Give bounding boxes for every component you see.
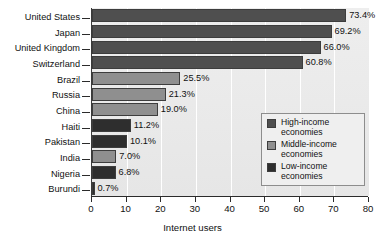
bar-row: 66.0% bbox=[92, 41, 369, 54]
category-label: Nigeria bbox=[0, 169, 80, 179]
category-tick bbox=[82, 18, 90, 19]
category-tick bbox=[82, 112, 90, 113]
bar-low bbox=[92, 119, 131, 132]
bar-high bbox=[92, 25, 332, 38]
legend-swatch-icon bbox=[267, 163, 276, 172]
category-label: Haiti bbox=[0, 122, 80, 132]
bar-middle bbox=[92, 103, 158, 116]
bar-value-label: 69.2% bbox=[335, 26, 361, 37]
value-axis: 01020304050607080 bbox=[91, 196, 368, 197]
category-label: India bbox=[0, 153, 80, 163]
x-tick bbox=[264, 197, 265, 202]
bar-row: 21.3% bbox=[92, 88, 369, 101]
x-tick-label: 40 bbox=[215, 203, 245, 214]
x-tick bbox=[195, 197, 196, 202]
bar-row: 73.4% bbox=[92, 9, 369, 22]
bar-row: 60.8% bbox=[92, 56, 369, 69]
x-tick bbox=[299, 197, 300, 202]
bar-low bbox=[92, 135, 127, 148]
x-tick bbox=[160, 197, 161, 202]
bar-high bbox=[92, 56, 303, 69]
legend-label: Low-income economies bbox=[281, 162, 359, 181]
category-label: Brazil bbox=[0, 75, 80, 85]
category-tick bbox=[82, 143, 90, 144]
legend-swatch-icon bbox=[267, 119, 276, 128]
bar-value-label: 66.0% bbox=[324, 42, 350, 53]
category-label: United Kingdom bbox=[0, 43, 80, 53]
x-tick bbox=[91, 197, 92, 202]
x-tick-label: 20 bbox=[145, 203, 175, 214]
bar-middle bbox=[92, 150, 116, 163]
bar-value-label: 6.8% bbox=[119, 167, 140, 178]
category-tick bbox=[82, 175, 90, 176]
legend-item-high: High-income economies bbox=[267, 118, 359, 137]
x-tick bbox=[230, 197, 231, 202]
category-tick bbox=[82, 190, 90, 191]
bar-low bbox=[92, 166, 116, 179]
bar-value-label: 60.8% bbox=[306, 57, 332, 68]
x-tick bbox=[333, 197, 334, 202]
category-tick bbox=[82, 49, 90, 50]
legend-swatch-icon bbox=[267, 141, 276, 150]
category-label: China bbox=[0, 106, 80, 116]
x-tick-label: 30 bbox=[180, 203, 210, 214]
bar-high bbox=[92, 41, 321, 54]
category-label: Switzerland bbox=[0, 59, 80, 69]
gridline bbox=[369, 8, 370, 196]
category-label: Pakistan bbox=[0, 137, 80, 147]
category-tick bbox=[82, 81, 90, 82]
legend-item-low: Low-income economies bbox=[267, 162, 359, 181]
category-label: United States bbox=[0, 12, 80, 22]
bar-row: 69.2% bbox=[92, 25, 369, 38]
category-tick bbox=[82, 34, 90, 35]
category-axis-labels: United StatesJapanUnited KingdomSwitzerl… bbox=[0, 10, 80, 196]
category-label: Burundi bbox=[0, 184, 80, 194]
legend-label: Middle-income economies bbox=[281, 140, 359, 159]
legend-label: High-income economies bbox=[281, 118, 359, 137]
bar-value-label: 11.2% bbox=[134, 120, 159, 131]
bar-value-label: 10.1% bbox=[130, 136, 156, 147]
x-tick-label: 70 bbox=[318, 203, 348, 214]
bar-middle bbox=[92, 72, 180, 85]
category-label: Japan bbox=[0, 28, 80, 38]
internet-users-bar-chart: United StatesJapanUnited KingdomSwitzerl… bbox=[0, 0, 385, 246]
category-tick bbox=[82, 128, 90, 129]
bar-value-label: 25.5% bbox=[183, 73, 209, 84]
bar-value-label: 19.0% bbox=[161, 104, 187, 115]
x-tick bbox=[368, 197, 369, 202]
x-tick-label: 60 bbox=[284, 203, 314, 214]
x-tick-label: 80 bbox=[353, 203, 383, 214]
legend-item-middle: Middle-income economies bbox=[267, 140, 359, 159]
category-tick bbox=[82, 65, 90, 66]
bar-row: 25.5% bbox=[92, 72, 369, 85]
x-tick-label: 10 bbox=[111, 203, 141, 214]
x-tick-label: 50 bbox=[249, 203, 279, 214]
category-label: Russia bbox=[0, 90, 80, 100]
bar-high bbox=[92, 9, 346, 22]
bar-value-label: 0.7% bbox=[98, 183, 119, 194]
bar-value-label: 21.3% bbox=[169, 89, 195, 100]
bar-low bbox=[92, 182, 95, 195]
chart-legend: High-income economiesMiddle-income econo… bbox=[261, 113, 365, 186]
category-tick bbox=[82, 159, 90, 160]
x-tick-label: 0 bbox=[76, 203, 106, 214]
x-tick bbox=[126, 197, 127, 202]
x-axis-title: Internet users bbox=[0, 222, 385, 233]
bar-value-label: 73.4% bbox=[349, 10, 375, 21]
bar-value-label: 7.0% bbox=[119, 151, 140, 162]
bar-middle bbox=[92, 88, 166, 101]
category-tick bbox=[82, 96, 90, 97]
